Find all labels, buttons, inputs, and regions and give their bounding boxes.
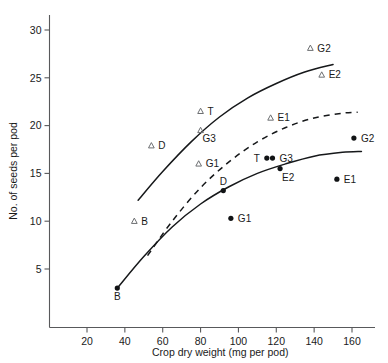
data-point-label-e2: E2: [329, 69, 342, 80]
upper-solid-curve: [138, 64, 333, 200]
data-point-filled-g2: [351, 135, 356, 140]
data-point-label-e1: E1: [278, 112, 291, 123]
data-point-filled-d: [221, 188, 226, 193]
middle-dashed-curve: [148, 112, 358, 255]
data-point-filled-t: [264, 156, 269, 161]
data-point-open-b: [131, 218, 137, 223]
x-tick-label: 140: [305, 335, 323, 347]
y-tick-label: 30: [30, 24, 42, 36]
x-tick-label: 120: [268, 335, 286, 347]
data-point-label-t: T: [208, 106, 214, 117]
data-point-label-t: T: [254, 153, 260, 164]
data-point-filled-e2: [277, 166, 282, 171]
x-tick-label: 40: [119, 335, 131, 347]
data-point-label-b: B: [114, 291, 121, 302]
data-point-label-d: D: [220, 176, 227, 187]
data-point-open-e2: [319, 72, 325, 77]
data-point-open-g2: [308, 45, 314, 50]
data-point-filled-b: [115, 286, 120, 291]
data-point-open-d: [149, 143, 155, 148]
x-tick-label: 80: [195, 335, 207, 347]
data-point-label-e2: E2: [282, 172, 295, 183]
data-point-filled-g1: [228, 216, 233, 221]
data-point-open-g3: [198, 127, 204, 132]
data-point-label-g1: G1: [238, 213, 252, 224]
y-tick-label: 5: [36, 263, 42, 275]
x-tick-label: 20: [81, 335, 93, 347]
data-point-label-g1: G1: [206, 158, 220, 169]
x-axis-title: Crop dry weight (mg per pod): [152, 346, 289, 358]
data-point-filled-g3: [270, 156, 275, 161]
y-tick-label: 15: [30, 167, 42, 179]
data-point-open-g1: [196, 161, 202, 166]
data-point-label-g2: G2: [317, 43, 331, 54]
data-point-open-e1: [268, 115, 274, 120]
y-axis-title: No. of seeds per pod: [7, 122, 19, 220]
data-point-label-g3: G3: [280, 153, 294, 164]
data-point-filled-e1: [334, 177, 339, 182]
data-point-label-e1: E1: [344, 174, 357, 185]
data-point-label-g3: G3: [203, 133, 217, 144]
data-point-open-t: [198, 108, 204, 113]
x-tick-label: 100: [230, 335, 248, 347]
x-tick-label: 160: [343, 335, 361, 347]
plot-area: 5101520253020406080100120140160Crop dry …: [0, 0, 388, 363]
y-tick-label: 25: [30, 72, 42, 84]
data-point-label-b: B: [141, 216, 148, 227]
scatter-chart: 5101520253020406080100120140160Crop dry …: [0, 0, 388, 363]
y-tick-label: 10: [30, 215, 42, 227]
y-tick-label: 20: [30, 119, 42, 131]
data-point-label-g2: G2: [361, 133, 375, 144]
x-tick-label: 60: [157, 335, 169, 347]
data-point-label-d: D: [158, 140, 165, 151]
